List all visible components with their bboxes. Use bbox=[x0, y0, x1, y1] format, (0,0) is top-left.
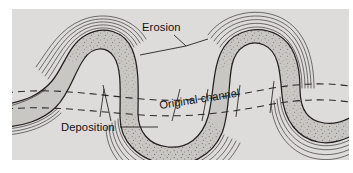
deposition-label: Deposition bbox=[61, 121, 115, 133]
erosion-leader-lines bbox=[140, 35, 208, 55]
meander-diagram: Erosion Deposition Original channel bbox=[12, 9, 349, 160]
deposition-point-bar-lower-right bbox=[282, 89, 349, 143]
diagram-panel: Erosion Deposition Original channel bbox=[12, 9, 349, 160]
figure-root: Erosion Deposition Original channel bbox=[0, 0, 353, 173]
erosion-label: Erosion bbox=[142, 21, 181, 33]
